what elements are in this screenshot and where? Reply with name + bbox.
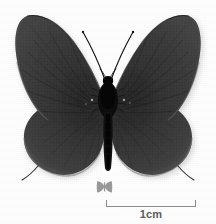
left-hindwing-tail — [22, 166, 38, 180]
left-forewing — [10, 8, 110, 126]
scale-bar-rule — [106, 200, 196, 207]
abdomen — [103, 112, 112, 171]
right-hindwing-tail — [178, 166, 194, 180]
butterfly-thumbnail-icon — [96, 180, 113, 194]
scale-bar-label: 1cm — [104, 208, 198, 220]
right-forewing — [106, 8, 206, 126]
specimen-plate: 1cm — [0, 0, 216, 224]
scale-bar: 1cm — [104, 198, 198, 224]
